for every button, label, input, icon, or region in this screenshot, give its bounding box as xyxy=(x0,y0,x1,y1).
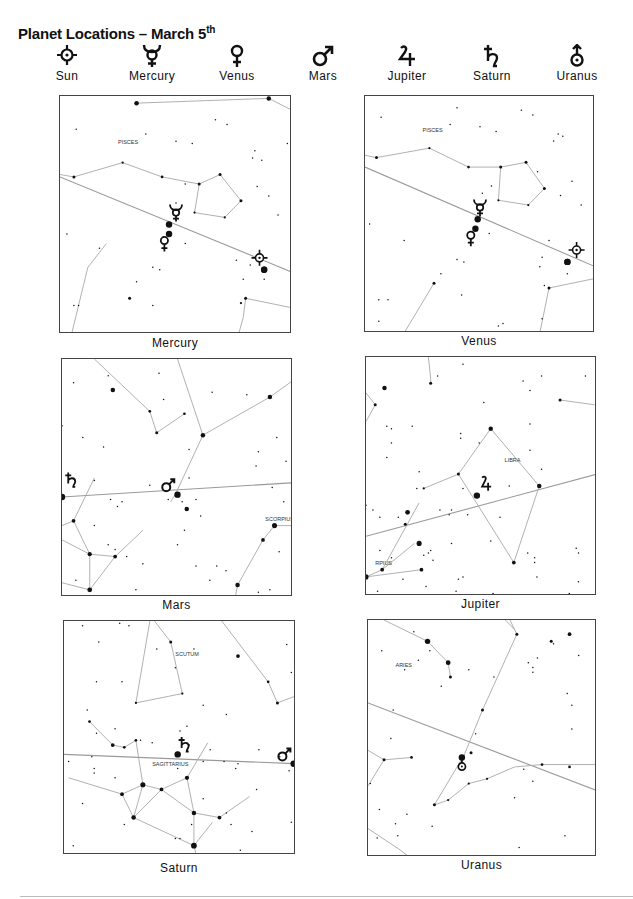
star xyxy=(541,469,543,471)
star xyxy=(149,484,151,486)
star xyxy=(532,114,534,116)
star xyxy=(529,423,531,425)
star xyxy=(451,509,453,511)
star xyxy=(566,693,568,695)
star xyxy=(225,570,227,572)
venus-position-dot xyxy=(166,231,172,237)
star xyxy=(268,395,273,400)
star-chart-jupiter: LIBRARPIUS xyxy=(365,356,596,595)
legend-item-jupiter: Jupiter xyxy=(367,44,447,83)
star xyxy=(490,540,492,542)
star xyxy=(131,815,136,820)
star xyxy=(425,639,430,644)
star xyxy=(449,124,451,126)
constellation-line xyxy=(62,540,90,590)
star xyxy=(499,516,501,518)
star xyxy=(211,392,213,394)
star xyxy=(181,692,183,694)
star xyxy=(239,199,242,202)
star xyxy=(195,565,197,567)
star xyxy=(82,803,84,805)
constellation-line xyxy=(404,283,434,332)
star xyxy=(175,838,177,840)
star xyxy=(499,166,502,169)
star xyxy=(73,305,75,307)
star xyxy=(145,133,147,135)
star xyxy=(456,259,458,261)
constellation-line xyxy=(428,357,430,383)
star xyxy=(249,264,251,266)
mercury-icon xyxy=(170,205,182,222)
star-chart-panel-saturn: SCUTUMSAGITTARIUS Saturn xyxy=(63,620,295,880)
star xyxy=(160,788,164,792)
star xyxy=(251,831,253,833)
star xyxy=(184,530,186,532)
star-chart-saturn: SCUTUMSAGITTARIUS xyxy=(63,620,295,854)
star xyxy=(541,763,544,766)
panel-caption: Venus xyxy=(364,334,594,348)
star xyxy=(261,160,263,162)
mercury-icon xyxy=(112,44,192,68)
star xyxy=(569,593,571,595)
star xyxy=(451,543,453,545)
star xyxy=(61,425,63,427)
star xyxy=(431,825,433,827)
star xyxy=(148,410,151,413)
saturn-icon xyxy=(452,44,532,68)
constellation-line xyxy=(62,478,94,526)
star xyxy=(223,761,225,763)
uranus-icon xyxy=(537,44,617,68)
star xyxy=(163,399,165,401)
star xyxy=(376,837,378,839)
constellation-line xyxy=(134,785,197,854)
star xyxy=(181,501,183,503)
constellation-line xyxy=(203,380,292,435)
star xyxy=(578,552,580,554)
constellation-line xyxy=(90,722,143,785)
star xyxy=(111,388,116,393)
mercury-position-dot xyxy=(475,216,481,222)
star xyxy=(462,488,464,490)
star xyxy=(374,403,377,406)
star xyxy=(216,565,218,567)
star xyxy=(380,568,384,572)
star xyxy=(255,465,256,467)
star xyxy=(119,623,121,625)
star xyxy=(439,509,441,511)
star xyxy=(578,581,580,583)
star xyxy=(219,173,222,176)
uranus-icon xyxy=(458,759,465,771)
star-chart-mars: SCORPIUS xyxy=(61,358,292,596)
star xyxy=(458,579,460,581)
star xyxy=(93,772,95,774)
star xyxy=(185,243,187,245)
star xyxy=(111,743,115,747)
star xyxy=(493,676,495,678)
constellation-line xyxy=(368,750,412,759)
star xyxy=(437,375,439,377)
star xyxy=(201,433,206,438)
legend-item-saturn: Saturn xyxy=(452,44,532,83)
star xyxy=(571,728,573,730)
star xyxy=(380,117,382,119)
mars-icon xyxy=(283,44,363,68)
star xyxy=(432,559,434,561)
constellation-line xyxy=(368,829,409,856)
star xyxy=(448,514,450,516)
star xyxy=(267,96,272,101)
star xyxy=(539,266,541,268)
saturn-position-dot xyxy=(61,494,65,500)
star xyxy=(481,709,484,712)
star xyxy=(209,580,211,582)
star xyxy=(365,504,367,506)
star xyxy=(508,485,510,487)
star xyxy=(377,590,379,592)
star xyxy=(124,824,126,826)
star xyxy=(98,641,100,643)
star xyxy=(236,654,240,658)
star xyxy=(491,185,493,187)
star xyxy=(522,380,524,382)
constellation-line xyxy=(384,620,450,677)
star xyxy=(383,758,386,761)
constellation-line xyxy=(366,503,419,577)
